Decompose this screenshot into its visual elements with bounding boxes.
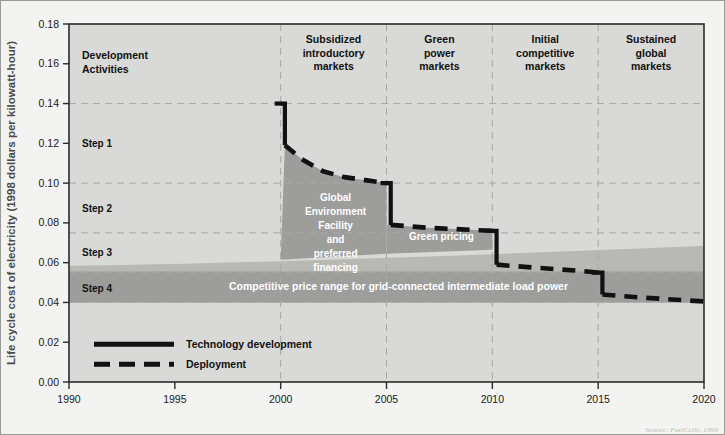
gef-region-label: Global bbox=[320, 192, 351, 203]
gef-region-label: Facility bbox=[318, 220, 353, 231]
phase-label-sustained-global-markets: Sustained bbox=[626, 33, 676, 45]
svg-text:2010: 2010 bbox=[481, 393, 505, 405]
svg-text:2015: 2015 bbox=[586, 393, 610, 405]
label-step-1: Step 1 bbox=[82, 138, 112, 149]
y-axis: 0.000.020.040.060.080.100.120.140.160.18 bbox=[39, 18, 69, 388]
svg-text:2005: 2005 bbox=[375, 393, 399, 405]
phase-label-green-power-markets: power bbox=[424, 47, 455, 59]
svg-text:2000: 2000 bbox=[269, 393, 293, 405]
svg-text:0.04: 0.04 bbox=[39, 296, 60, 308]
phase-label-initial-competitive-markets: competitive bbox=[516, 47, 575, 59]
label-step-3: Step 3 bbox=[82, 247, 112, 258]
phase-label-development-activities: Development bbox=[82, 49, 148, 61]
svg-text:0.14: 0.14 bbox=[39, 97, 60, 109]
svg-text:0.12: 0.12 bbox=[39, 137, 60, 149]
x-axis: 1990199520002005201020152020 bbox=[57, 382, 716, 405]
svg-text:1990: 1990 bbox=[57, 393, 81, 405]
svg-text:0.10: 0.10 bbox=[39, 177, 60, 189]
chart-svg: 0.000.020.040.060.080.100.120.140.160.18… bbox=[1, 1, 725, 435]
phase-label-green-power-markets: Green bbox=[424, 33, 454, 45]
phase-label-initial-competitive-markets: markets bbox=[525, 60, 565, 72]
svg-text:0.06: 0.06 bbox=[39, 256, 60, 268]
label-step-4: Step 4 bbox=[82, 283, 112, 294]
gef-region-label: financing bbox=[313, 262, 357, 273]
svg-text:1995: 1995 bbox=[163, 393, 187, 405]
svg-text:0.16: 0.16 bbox=[39, 57, 60, 69]
svg-text:0.02: 0.02 bbox=[39, 336, 60, 348]
gef-region-label: preferred bbox=[314, 248, 358, 259]
figure-container: 0.000.020.040.060.080.100.120.140.160.18… bbox=[0, 0, 725, 435]
source-caption: Source: FuelCells, 1999 bbox=[645, 426, 718, 434]
phase-label-green-power-markets: markets bbox=[419, 60, 459, 72]
phase-label-subsidized-introductory-markets: Subsidized bbox=[306, 33, 361, 45]
label-step-2: Step 2 bbox=[82, 203, 112, 214]
phase-label-sustained-global-markets: global bbox=[636, 47, 667, 59]
phase-label-subsidized-introductory-markets: markets bbox=[313, 60, 353, 72]
svg-text:0.08: 0.08 bbox=[39, 216, 60, 228]
legend-label-deployment: Deployment bbox=[186, 358, 247, 370]
y-axis-title: Life cycle cost of electricity (1998 dol… bbox=[5, 41, 17, 365]
phase-label-initial-competitive-markets: Initial bbox=[532, 33, 560, 45]
svg-text:2020: 2020 bbox=[692, 393, 716, 405]
svg-text:0.00: 0.00 bbox=[39, 376, 60, 388]
phase-label-subsidized-introductory-markets: introductory bbox=[303, 47, 365, 59]
green-pricing-label: Green pricing bbox=[409, 231, 474, 242]
gef-region-label: Environment bbox=[305, 206, 367, 217]
phase-label-sustained-global-markets: markets bbox=[631, 60, 671, 72]
legend-label-technology-development: Technology development bbox=[186, 338, 312, 350]
gef-region-label: and bbox=[327, 234, 345, 245]
competitive-band-label: Competitive price range for grid-connect… bbox=[229, 280, 568, 292]
svg-text:0.18: 0.18 bbox=[39, 18, 60, 30]
phase-label-development-activities: Activities bbox=[82, 63, 129, 75]
